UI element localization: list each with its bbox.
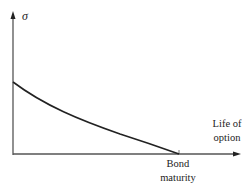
- maturity-label-line2: maturity: [160, 172, 196, 183]
- volatility-diagram: σ Life of option Bond maturity: [0, 0, 248, 192]
- x-axis-label-line2: option: [214, 132, 242, 143]
- maturity-label-line1: Bond: [167, 158, 191, 169]
- y-axis-arrow-icon: [11, 11, 16, 19]
- x-axis-label-line1: Life of: [213, 118, 242, 129]
- volatility-curve: [13, 82, 179, 154]
- x-axis-arrow-icon: [233, 152, 241, 157]
- y-axis-label: σ: [22, 9, 29, 23]
